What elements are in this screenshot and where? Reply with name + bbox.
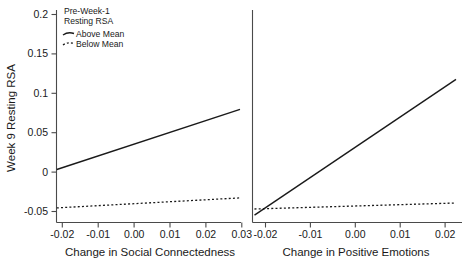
series-line-above-mean-right xyxy=(255,79,457,215)
x-tick-label: 0.02 xyxy=(435,228,456,240)
x-axis-title-right: Change in Positive Emotions xyxy=(282,246,429,258)
legend-label-below-mean: Below Mean xyxy=(76,39,124,49)
x-axis-ticks-left: -0.02 -0.01 0.00 0.01 0.02 0.03 xyxy=(50,223,252,241)
x-tick-label: 0.03 xyxy=(232,228,253,240)
figure-container: Week 9 Resting RSA 0.2 0.15 0.1 0.05 0 -… xyxy=(0,0,469,275)
series-line-below-mean-left xyxy=(57,198,240,208)
x-tick-label: -0.01 xyxy=(298,228,322,240)
y-tick-label: -0.05 xyxy=(24,205,48,217)
y-tick-label: 0.05 xyxy=(28,126,49,138)
chart-svg: Week 9 Resting RSA 0.2 0.15 0.1 0.05 0 -… xyxy=(0,0,469,275)
x-tick-label: -0.01 xyxy=(86,228,110,240)
x-tick-label: 0.01 xyxy=(390,228,411,240)
x-axis-ticks-right: -0.02 -0.01 0.00 0.01 0.02 xyxy=(254,223,456,241)
x-axis-title-left: Change in Social Connectedness xyxy=(65,246,235,258)
x-tick-label: 0.01 xyxy=(160,228,181,240)
legend: Pre-Week-1 Resting RSA Above Mean Below … xyxy=(63,6,124,49)
y-tick-label: 0 xyxy=(42,166,48,178)
legend-title-line2: Resting RSA xyxy=(64,16,113,26)
legend-label-above-mean: Above Mean xyxy=(76,29,124,39)
series-line-above-mean-left xyxy=(57,109,240,169)
legend-title-line1: Pre-Week-1 xyxy=(64,6,110,16)
legend-sample-below-mean-icon xyxy=(63,43,74,45)
x-tick-label: -0.02 xyxy=(50,228,74,240)
y-tick-label: 0.2 xyxy=(33,8,48,20)
y-tick-label: 0.15 xyxy=(28,47,49,59)
y-tick-label: 0.1 xyxy=(33,87,48,99)
x-tick-label: 0.00 xyxy=(345,228,366,240)
x-tick-label: -0.02 xyxy=(254,228,278,240)
x-tick-label: 0.02 xyxy=(196,228,217,240)
y-axis-ticks: 0.2 0.15 0.1 0.05 0 -0.05 xyxy=(24,8,56,217)
legend-sample-above-mean-icon xyxy=(63,33,74,35)
x-tick-label: 0.00 xyxy=(124,228,145,240)
y-axis-title: Week 9 Resting RSA xyxy=(5,64,17,172)
panel-social-connectedness: -0.02 -0.01 0.00 0.01 0.02 0.03 Change i… xyxy=(50,109,252,258)
series-line-below-mean-right xyxy=(255,203,457,209)
panel-positive-emotions: -0.02 -0.01 0.00 0.01 0.02 Change in Pos… xyxy=(253,10,463,258)
